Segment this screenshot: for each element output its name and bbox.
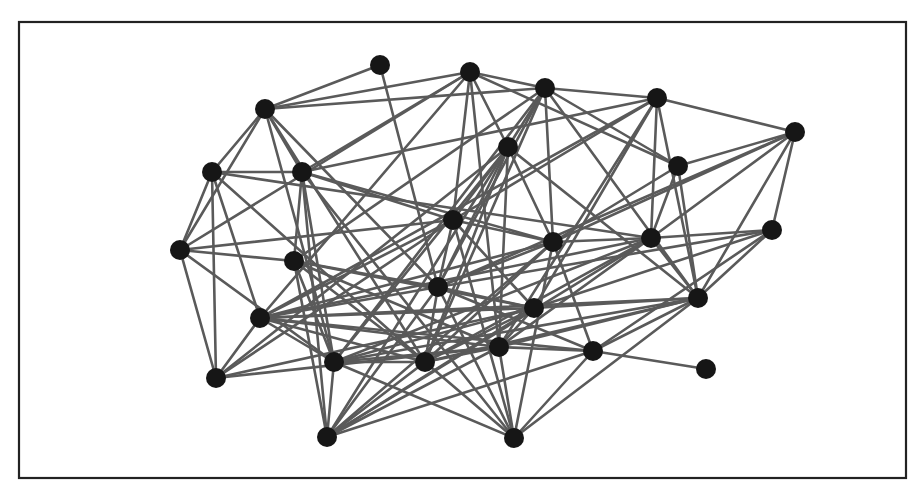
- graph-node: [641, 228, 661, 248]
- graph-node: [284, 251, 304, 271]
- graph-node: [583, 341, 603, 361]
- graph-node: [250, 308, 270, 328]
- graph-node: [785, 122, 805, 142]
- graph-node: [292, 162, 312, 182]
- graph-node: [202, 162, 222, 182]
- graph-node: [443, 210, 463, 230]
- graph-node: [524, 298, 544, 318]
- graph-node: [668, 156, 688, 176]
- graph-node: [415, 352, 435, 372]
- graph-node: [647, 88, 667, 108]
- graph-node: [317, 427, 337, 447]
- graph-node: [489, 337, 509, 357]
- graph-node: [535, 78, 555, 98]
- graph-node: [255, 99, 275, 119]
- graph-node: [206, 368, 226, 388]
- graph-node: [696, 359, 716, 379]
- graph-node: [543, 232, 563, 252]
- graph-node: [762, 220, 782, 240]
- graph-node: [370, 55, 390, 75]
- graph-node: [504, 428, 524, 448]
- graph-node: [498, 137, 518, 157]
- graph-node: [170, 240, 190, 260]
- graph-node: [460, 62, 480, 82]
- graph-node: [428, 277, 448, 297]
- graph-node: [688, 288, 708, 308]
- network-graph-canvas: [0, 0, 924, 498]
- graph-node: [324, 352, 344, 372]
